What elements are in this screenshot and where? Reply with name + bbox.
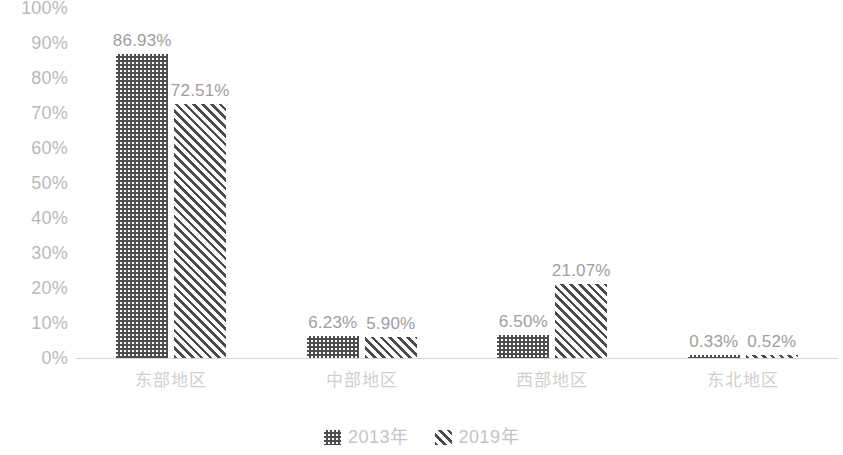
bar-value-label: 0.52% — [747, 333, 796, 350]
bar[interactable] — [116, 54, 168, 358]
y-axis-tick: 70% — [0, 104, 68, 122]
axis-baseline — [76, 358, 838, 359]
bar[interactable] — [497, 335, 549, 358]
bar[interactable] — [307, 336, 359, 358]
legend-label: 2019年 — [459, 428, 520, 446]
plot-area: 86.93%72.51%6.23%5.90%6.50%21.07%0.33%0.… — [76, 8, 838, 358]
y-axis-tick: 10% — [0, 314, 68, 332]
x-axis-category-label: 中部地区 — [292, 372, 432, 389]
bar[interactable] — [174, 104, 226, 358]
legend-item[interactable]: 2013年 — [324, 428, 409, 446]
bar-group-item — [746, 8, 798, 358]
bar-value-label: 6.23% — [308, 314, 357, 331]
bar-value-label: 21.07% — [552, 262, 611, 279]
y-axis-tick: 80% — [0, 69, 68, 87]
bar[interactable] — [365, 337, 417, 358]
y-axis-tick: 20% — [0, 279, 68, 297]
y-axis-tick: 50% — [0, 174, 68, 192]
y-axis-tick: 30% — [0, 244, 68, 262]
bar-group-item — [688, 8, 740, 358]
y-axis-tick: 90% — [0, 34, 68, 52]
bar-value-label: 86.93% — [113, 32, 172, 49]
bar[interactable] — [555, 284, 607, 358]
bar-value-label: 0.33% — [689, 333, 738, 350]
bar-value-label: 72.51% — [171, 82, 230, 99]
y-axis-tick: 40% — [0, 209, 68, 227]
x-axis-category-label: 东部地区 — [101, 372, 241, 389]
bar-group-item — [497, 8, 549, 358]
legend-swatch-stripes-icon — [435, 430, 452, 445]
legend-swatch-dotted-icon — [324, 430, 341, 445]
bar-group-item — [365, 8, 417, 358]
bar-group-item — [116, 8, 168, 358]
bar-group-item — [307, 8, 359, 358]
x-axis-category-label: 东北地区 — [673, 372, 813, 389]
y-axis: 100% 90% 80% 70% 60% 50% 40% 30% 20% 10%… — [0, 0, 72, 365]
bar-value-label: 6.50% — [499, 313, 548, 330]
bar-group-item — [174, 8, 226, 358]
y-axis-tick: 0% — [0, 349, 68, 367]
chart-legend: 2013年 2019年 — [0, 428, 843, 446]
bar-group-item — [555, 8, 607, 358]
legend-item[interactable]: 2019年 — [435, 428, 520, 446]
bar-chart: 100% 90% 80% 70% 60% 50% 40% 30% 20% 10%… — [0, 0, 843, 455]
y-axis-tick: 60% — [0, 139, 68, 157]
bar-value-label: 5.90% — [366, 315, 415, 332]
y-axis-tick: 100% — [0, 0, 68, 17]
x-axis-category-label: 西部地区 — [482, 372, 622, 389]
legend-label: 2013年 — [348, 428, 409, 446]
